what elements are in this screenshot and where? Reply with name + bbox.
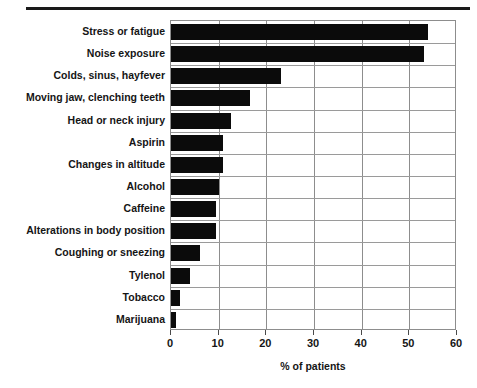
bar <box>171 290 180 306</box>
x-tick-label: 0 <box>150 336 190 350</box>
category-label: Alcohol <box>0 175 165 197</box>
x-tick-mark-60 <box>456 330 457 335</box>
category-label: Caffeine <box>0 197 165 219</box>
x-tick-label: 20 <box>245 336 285 350</box>
bar-row <box>171 265 457 287</box>
x-tick-mark-20 <box>265 330 266 335</box>
bar <box>171 90 250 106</box>
category-label: Tylenol <box>0 264 165 286</box>
chart-figure: Stress or fatigueNoise exposureColds, si… <box>0 0 477 388</box>
bar <box>171 46 424 62</box>
category-label: Changes in altitude <box>0 153 165 175</box>
bar-row <box>171 287 457 309</box>
bar-row <box>171 220 457 242</box>
x-tick-label: 50 <box>388 336 428 350</box>
bar-row <box>171 242 457 264</box>
category-label: Coughing or sneezing <box>0 241 165 263</box>
x-tick-label: 60 <box>436 336 476 350</box>
top-rule-divider <box>26 7 470 10</box>
bar <box>171 223 216 239</box>
bar-row <box>171 154 457 176</box>
bar-row <box>171 43 457 65</box>
bar <box>171 68 281 84</box>
category-label: Colds, sinus, hayfever <box>0 64 165 86</box>
x-tick-label: 10 <box>198 336 238 350</box>
category-label: Tobacco <box>0 286 165 308</box>
bar <box>171 201 216 217</box>
bar <box>171 268 190 284</box>
category-label: Marijuana <box>0 308 165 330</box>
bar-row <box>171 110 457 132</box>
category-label: Stress or fatigue <box>0 20 165 42</box>
bar-row <box>171 132 457 154</box>
x-tick-mark-0 <box>170 330 171 335</box>
x-tick-mark-30 <box>313 330 314 335</box>
x-tick-mark-50 <box>408 330 409 335</box>
plot-area <box>170 20 456 330</box>
category-label: Noise exposure <box>0 42 165 64</box>
bar-row <box>171 65 457 87</box>
category-label: Alterations in body position <box>0 219 165 241</box>
bar-row <box>171 198 457 220</box>
bar <box>171 157 223 173</box>
bar-row <box>171 21 457 43</box>
category-label: Aspirin <box>0 131 165 153</box>
bar <box>171 24 428 40</box>
bar <box>171 179 219 195</box>
x-tick-mark-10 <box>218 330 219 335</box>
category-label: Head or neck injury <box>0 109 165 131</box>
x-tick-mark-40 <box>361 330 362 335</box>
bar <box>171 113 231 129</box>
bar-row <box>171 87 457 109</box>
bar <box>171 135 223 151</box>
bar <box>171 245 200 261</box>
x-tick-label: 40 <box>341 336 381 350</box>
bar <box>171 312 176 328</box>
x-tick-label: 30 <box>293 336 333 350</box>
category-label: Moving jaw, clenching teeth <box>0 86 165 108</box>
bar-row <box>171 176 457 198</box>
bar-row <box>171 309 457 331</box>
x-axis-title: % of patients <box>170 360 456 372</box>
